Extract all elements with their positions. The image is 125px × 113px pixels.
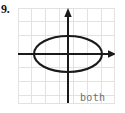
problem-number-label: 9.	[1, 2, 10, 16]
graph-plot-area	[18, 8, 115, 104]
coordinate-axes	[18, 8, 115, 104]
problem-figure: 9.	[0, 0, 125, 113]
x-axis-arrowhead	[108, 50, 115, 58]
y-axis-arrowhead	[64, 8, 71, 17]
answer-label: both	[80, 92, 105, 104]
